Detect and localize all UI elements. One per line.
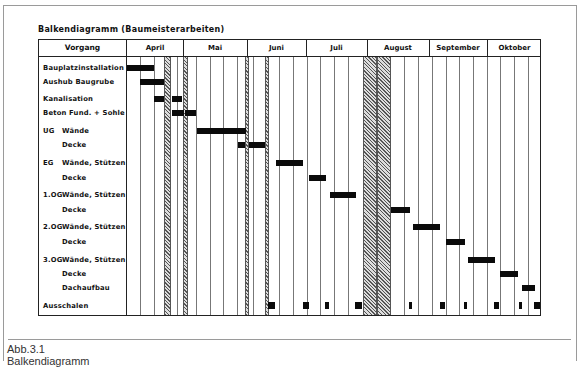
bar-eg-decke [309,175,326,181]
month-september: September [429,40,487,56]
month-mai: Mai [183,40,247,56]
week-gridline [432,57,433,315]
mark-ausschalen [494,302,499,309]
row-prefix: 3.OG [43,256,62,264]
mark-ausschalen [325,302,329,309]
bar-kanalisation [154,96,164,102]
week-gridline [459,57,460,315]
row-label: Dachaufbau [62,284,110,292]
caption-rule [8,339,571,340]
bar-beton-fundament [185,110,196,116]
row-label: Bauplatzinstallation [43,64,124,72]
week-gridline [446,57,447,315]
week-gridline [334,57,335,315]
bar-3og-decke [500,271,518,277]
bar-aushub-baugrube [140,79,164,85]
bar-ug-decke [238,142,245,148]
mark-ausschalen [534,302,540,309]
row-label: Decke [62,238,86,246]
bar-eg-waende [276,160,303,166]
month-april: April [127,40,183,56]
week-gridline [196,57,197,315]
bar-2og-waende [413,224,440,230]
row-prefix: 2.OG [43,223,62,231]
row-label: Wände, Stützen [62,223,126,231]
mark-ausschalen [303,302,309,309]
row-label: Decke [62,206,86,214]
bar-kanalisation [172,96,182,102]
row-label: Wände, Stützen [62,191,126,199]
row-label: Beton Fund. + Sohle [43,109,125,117]
holiday-hatch [164,57,171,315]
bar-ug-decke [249,142,265,148]
vacation-hatch [377,57,391,315]
mark-ausschalen [355,302,362,309]
vacation-hatch [363,57,377,315]
week-gridline [237,57,238,315]
bar-dachaufbau [522,285,535,291]
gantt-chart: Vorgang April Mai Juni Juli August Septe… [38,39,541,316]
week-gridline [279,57,280,315]
mark-ausschalen [440,302,445,309]
bar-1og-decke [391,207,410,213]
week-gridline [528,57,529,315]
row-label: Decke [62,270,86,278]
month-juni: Juni [247,40,306,56]
week-gridline [348,57,349,315]
row-prefix: 1.OG [43,191,62,199]
week-gridline [418,57,419,315]
holiday-hatch [183,57,188,315]
mark-ausschalen [268,302,275,309]
bar-beton-fundament [172,110,184,116]
row-label: Wände [62,127,89,135]
mark-ausschalen [409,302,412,309]
month-juli: Juli [306,40,367,56]
month-oktober: Oktober [487,40,542,56]
row-label: Ausschalen [43,302,88,310]
bar-2og-decke [446,239,465,245]
row-prefix: UG [43,127,55,135]
row-label: Decke [62,141,86,149]
week-gridline [404,57,405,315]
week-gridline [473,57,474,315]
figure-caption: Balkendiagramm [7,355,90,367]
figure-number: Abb.3.1 [7,343,45,355]
header-vorgang: Vorgang [39,40,126,56]
week-gridline [320,57,321,315]
bar-ug-waende [197,128,246,134]
holiday-hatch [245,57,249,315]
row-label: Kanalisation [43,95,93,103]
week-gridline [140,57,141,315]
row-label: Decke [62,174,86,182]
week-gridline [307,57,308,315]
bar-1og-waende [330,192,356,198]
holiday-hatch [265,57,269,315]
month-august: August [367,40,429,56]
row-label: Aushub Baugrube [43,78,114,86]
week-gridline [293,57,294,315]
week-gridline [253,57,254,315]
mark-ausschalen [464,302,467,309]
week-gridline [210,57,211,315]
week-gridline [487,57,488,315]
row-prefix: EG [43,159,54,167]
mark-ausschalen [519,302,522,309]
week-gridline [223,57,224,315]
bar-bauplatzinstallation [127,65,154,71]
header-divider [39,56,540,57]
bar-3og-waende [468,257,495,263]
chart-title: Balkendiagramm (Baumeisterarbeiten) [38,25,225,34]
row-label: Wände, Stützen [62,159,126,167]
row-label: Wände, Stützen [62,256,126,264]
label-column-divider [126,40,127,315]
